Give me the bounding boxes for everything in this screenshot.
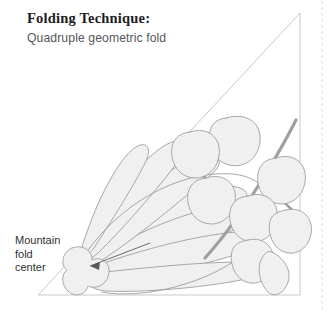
leaf xyxy=(172,130,220,178)
leaf-pointed xyxy=(259,251,289,294)
folding-technique-card: Folding Technique: Quadruple geometric f… xyxy=(0,0,333,312)
origami-folding-diagram xyxy=(0,0,333,312)
leaf xyxy=(188,176,236,224)
leaf xyxy=(269,209,311,253)
